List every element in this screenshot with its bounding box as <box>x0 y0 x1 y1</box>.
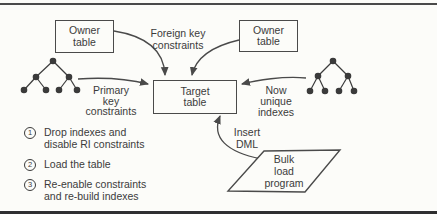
primary-key-constraints-label: Primary key constraints <box>83 85 139 117</box>
owner-table-left-label: Owner <box>56 25 113 37</box>
owner-table-right-label: table <box>240 36 297 48</box>
target-table-node: Target table <box>153 80 237 114</box>
step-1-text: Drop indexes and disable RI constraints <box>44 126 144 151</box>
owner-table-right-node: Owner table <box>239 20 298 52</box>
step-3-badge: 3 <box>24 179 36 191</box>
btree-index-icon-right <box>307 58 356 93</box>
owner-table-left-label: table <box>56 37 113 49</box>
btree-index-icon-left <box>21 58 79 92</box>
step-3-text: Re-enable constraints and re-build index… <box>44 178 146 203</box>
step-1-badge: 1 <box>24 127 36 139</box>
target-table-label: table <box>154 97 236 109</box>
bulk-load-diagram: Owner table Owner table Target table For… <box>0 0 437 220</box>
list-item: 2 Load the table <box>24 158 146 171</box>
insert-dml-label: Insert DML <box>228 127 266 150</box>
bulk-load-program-label: Bulk load program <box>250 153 318 189</box>
step-2-text: Load the table <box>44 158 111 170</box>
load-steps-list: 1 Drop indexes and disable RI constraint… <box>24 126 146 209</box>
step-2-badge: 2 <box>24 159 36 171</box>
owner-table-left-node: Owner table <box>55 20 114 53</box>
now-unique-indexes-label: Now unique indexes <box>248 85 304 118</box>
foreign-key-constraints-label: Foreign key constraints <box>146 27 210 51</box>
list-item: 1 Drop indexes and disable RI constraint… <box>24 126 146 151</box>
list-item: 3 Re-enable constraints and re-build ind… <box>24 178 146 203</box>
